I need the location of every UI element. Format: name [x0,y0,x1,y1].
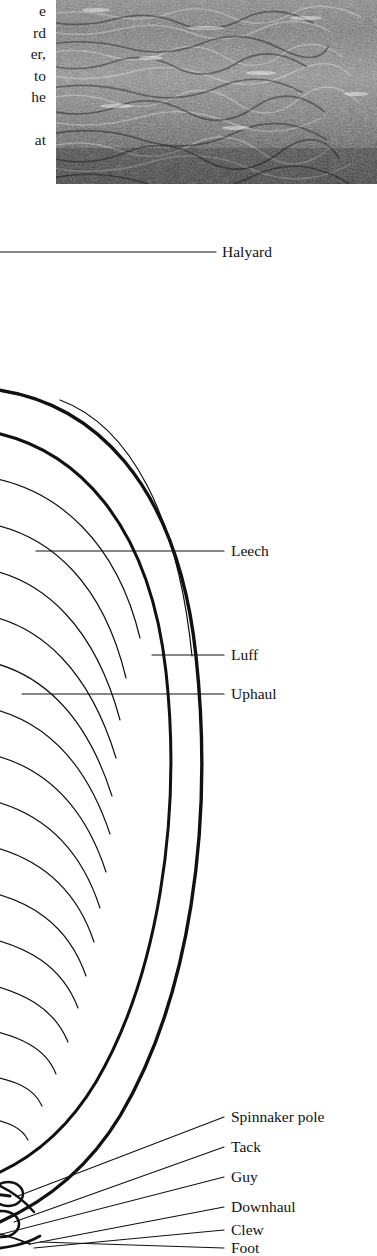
label-spinnaker-pole: Spinnaker pole [231,1109,324,1125]
label-guy: Guy [231,1169,258,1185]
label-uphaul: Uphaul [231,686,277,702]
leader-downhaul [30,1207,224,1244]
body-text-line: he [0,86,46,108]
body-text-line: rd [0,22,46,44]
body-text-line: e [0,0,46,22]
label-foot: Foot [231,1240,259,1256]
label-clew: Clew [231,1222,264,1238]
leader-tack [14,1147,224,1222]
body-text-gap [0,108,46,129]
label-tack: Tack [231,1139,261,1155]
label-luff: Luff [231,647,258,663]
spinnaker-diagram [0,186,377,1256]
body-text-column: e rd er, to he at [0,0,46,150]
label-halyard: Halyard [222,244,272,260]
label-leech: Leech [231,543,269,559]
sail-leech-outer [0,388,202,1226]
spinnaker-pole [0,1192,10,1196]
body-text-line: er, [0,43,46,65]
sea-surface-photograph [56,0,377,184]
label-downhaul: Downhaul [231,1199,296,1215]
body-text-line: to [0,65,46,87]
body-text-trailing-line: at [0,129,46,151]
